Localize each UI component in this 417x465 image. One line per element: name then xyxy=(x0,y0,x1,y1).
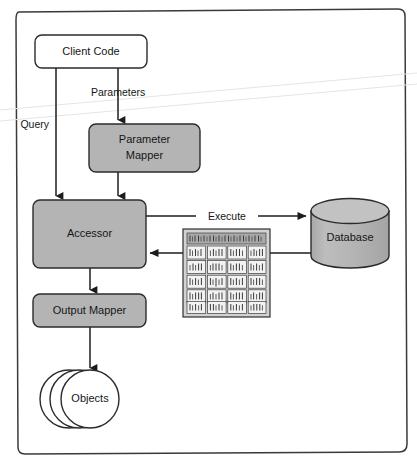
edge-label-query: Query xyxy=(20,118,49,130)
node-label-accessor: Accessor xyxy=(67,227,113,239)
node-label-parameter-mapper-line2: Mapper xyxy=(126,149,164,161)
node-label-output-mapper: Output Mapper xyxy=(53,304,127,316)
node-client-code[interactable]: Client Code xyxy=(35,35,147,68)
node-database[interactable]: Database xyxy=(311,199,389,269)
node-record-set[interactable] xyxy=(183,229,270,317)
node-output-mapper[interactable]: Output Mapper xyxy=(33,294,146,327)
node-accessor[interactable]: Accessor xyxy=(33,200,146,268)
edge-query: Query xyxy=(20,68,56,196)
edge-label-execute: Execute xyxy=(208,210,246,222)
node-label-objects: Objects xyxy=(71,392,109,404)
diagram-canvas: Query Parameters Execute xyxy=(0,0,417,465)
node-label-parameter-mapper-line1: Parameter xyxy=(119,133,171,145)
node-label-client-code: Client Code xyxy=(62,45,119,57)
edge-label-parameters: Parameters xyxy=(91,86,145,98)
node-parameter-mapper[interactable]: Parameter Mapper xyxy=(89,124,200,172)
edge-execute: Execute xyxy=(146,208,306,225)
scan-artifact xyxy=(0,73,417,121)
node-label-database: Database xyxy=(326,231,373,243)
node-objects[interactable]: Objects xyxy=(40,370,119,428)
